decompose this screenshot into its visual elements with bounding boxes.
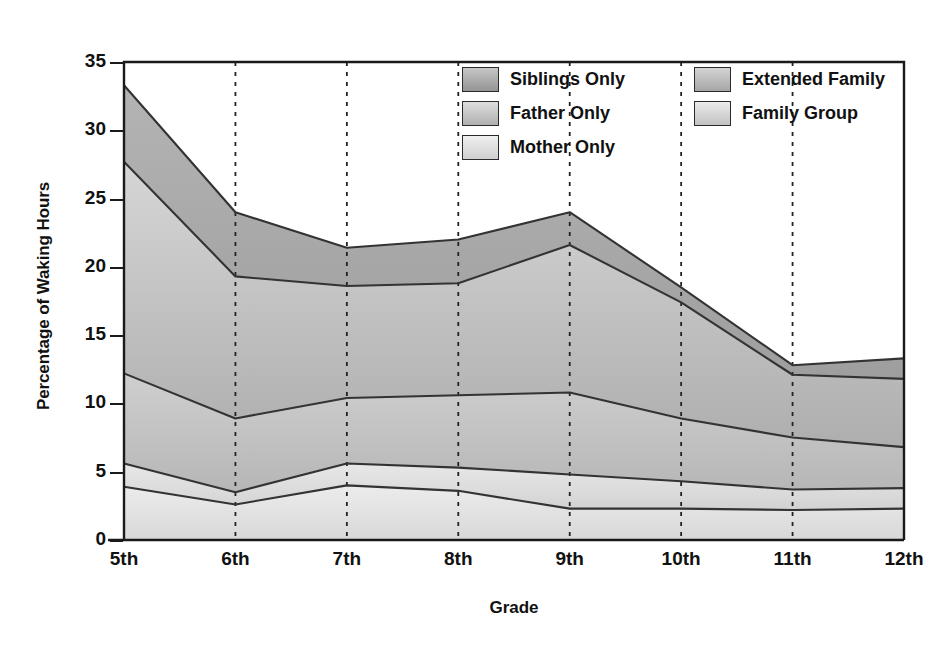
y-tick-label: 30: [60, 118, 106, 140]
y-tick-mark: [110, 540, 123, 542]
x-tick-label-10th: 10th: [636, 548, 726, 570]
x-tick-label-12th: 12th: [859, 548, 928, 570]
legend-label-father-only: Father Only: [510, 103, 610, 124]
x-tick-label-9th: 9th: [525, 548, 615, 570]
y-tick-label: 15: [60, 323, 106, 345]
legend-item-father-only: Father Only: [462, 101, 694, 126]
y-tick-label: 20: [60, 255, 106, 277]
legend-swatch-father-only: [462, 101, 499, 126]
legend-label-mother-only: Mother Only: [510, 137, 615, 158]
legend-swatch-family-group: [694, 101, 731, 126]
chart-legend: Siblings Only Extended Family Father Onl…: [462, 62, 892, 166]
legend-item-siblings-only: Siblings Only: [462, 67, 694, 92]
y-tick-label: 10: [60, 391, 106, 413]
legend-swatch-extended-family: [694, 67, 731, 92]
legend-item-extended-family: Extended Family: [694, 67, 892, 92]
chart-plot-area: 05101520253035 5th6th7th8th9th10th11th12…: [0, 0, 928, 646]
legend-label-family-group: Family Group: [742, 103, 858, 124]
y-tick-mark: [110, 62, 123, 64]
y-tick-mark: [110, 335, 123, 337]
x-axis-title: Grade: [124, 598, 904, 618]
legend-swatch-siblings-only: [462, 67, 499, 92]
y-tick-label: 5: [60, 460, 106, 482]
x-tick-label-11th: 11th: [748, 548, 838, 570]
legend-item-family-group: Family Group: [694, 101, 892, 126]
y-tick-mark: [110, 130, 123, 132]
legend-item-mother-only: Mother Only: [462, 135, 694, 160]
y-tick-mark: [110, 199, 123, 201]
legend-label-siblings-only: Siblings Only: [510, 69, 625, 90]
y-axis-title: Percentage of Waking Hours: [34, 56, 54, 536]
x-tick-label-8th: 8th: [413, 548, 503, 570]
y-tick-mark: [110, 267, 123, 269]
x-tick-label-7th: 7th: [302, 548, 392, 570]
x-tick-label-5th: 5th: [79, 548, 169, 570]
chart-figure: 05101520253035 5th6th7th8th9th10th11th12…: [0, 0, 928, 646]
y-tick-mark: [110, 403, 123, 405]
y-tick-label: 35: [60, 50, 106, 72]
y-tick-label: 0: [60, 528, 106, 550]
y-tick-label: 25: [60, 187, 106, 209]
y-tick-mark: [110, 472, 123, 474]
x-tick-label-6th: 6th: [190, 548, 280, 570]
legend-label-extended-family: Extended Family: [742, 69, 885, 90]
legend-swatch-mother-only: [462, 135, 499, 160]
